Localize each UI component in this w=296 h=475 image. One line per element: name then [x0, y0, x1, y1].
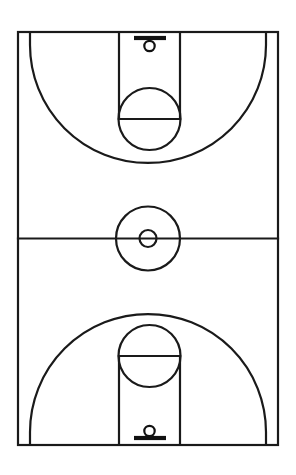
- basketball-court-diagram: [0, 0, 296, 475]
- rim-bottom: [144, 426, 154, 436]
- rim-top: [144, 41, 154, 51]
- court-svg-canvas: [0, 0, 296, 475]
